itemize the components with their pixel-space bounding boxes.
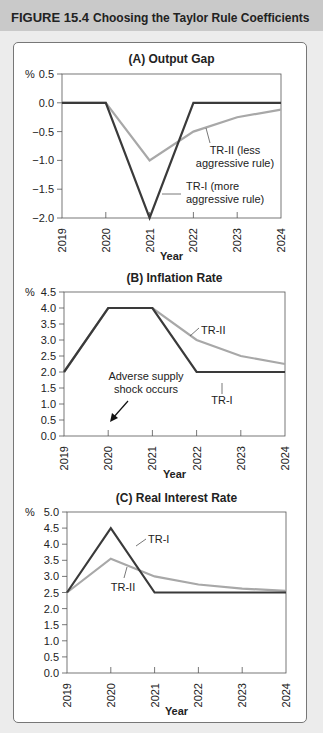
y-tick-label: 2.5 xyxy=(44,587,59,599)
annotation-tr2: TR-II xyxy=(111,581,135,593)
x-tick-label: 2019 xyxy=(61,683,73,707)
y-tick-label: 3.0 xyxy=(41,334,56,346)
y-tick-label: 4.5 xyxy=(44,522,59,534)
x-axis-label: Year xyxy=(160,250,184,262)
x-tick-label: 2023 xyxy=(236,683,248,707)
x-tick-label: 2021 xyxy=(144,228,156,252)
x-tick-label: 2020 xyxy=(100,228,112,252)
x-tick-label: 2021 xyxy=(149,683,161,707)
x-tick-label: 2020 xyxy=(105,683,117,707)
y-tick-label: 0.5 xyxy=(39,68,54,80)
y-tick-label: 1.5 xyxy=(41,382,56,394)
series-line-tr2 xyxy=(67,559,286,593)
x-tick-label: 2023 xyxy=(231,228,243,252)
x-tick-label: 2020 xyxy=(102,446,114,470)
x-tick-label: 2024 xyxy=(275,228,287,252)
y-unit-label: % xyxy=(25,506,35,518)
x-tick-label: 2021 xyxy=(146,446,158,470)
svg-text:aggressive rule): aggressive rule) xyxy=(196,157,274,169)
plot-frame xyxy=(64,292,285,436)
y-tick-label: 5.0 xyxy=(44,506,59,518)
x-tick-label: 2019 xyxy=(58,446,70,470)
chart-panel-a: (A) Output Gap0.50.0−0.5−1.0−1.5−2.0%201… xyxy=(25,52,287,262)
y-tick-label: 3.5 xyxy=(41,318,56,330)
y-unit-label: % xyxy=(25,286,35,298)
chart-panel-c: (C) Real Interest Rate5.04.54.03.53.02.5… xyxy=(25,491,292,717)
charts-canvas: (A) Output Gap0.50.0−0.5−1.0−1.5−2.0%201… xyxy=(0,0,323,733)
annotation-tr2: TR-II (less xyxy=(210,144,261,156)
x-tick-label: 2024 xyxy=(280,683,292,707)
series-line-tr1 xyxy=(67,528,286,592)
x-tick-label: 2022 xyxy=(192,683,204,707)
chart-panel-b: (B) Inflation Rate4.54.03.53.02.52.01.51… xyxy=(25,271,291,480)
y-tick-label: −2.0 xyxy=(32,212,54,224)
y-tick-label: 0.0 xyxy=(39,97,54,109)
y-tick-label: 2.0 xyxy=(44,603,59,615)
x-tick-label: 2022 xyxy=(191,446,203,470)
x-tick-label: 2022 xyxy=(187,228,199,252)
x-tick-label: 2023 xyxy=(235,446,247,470)
y-tick-label: 1.5 xyxy=(44,619,59,631)
y-tick-label: −1.0 xyxy=(32,154,54,166)
y-tick-label: −0.5 xyxy=(32,126,54,138)
y-tick-label: 0.5 xyxy=(44,651,59,663)
x-axis-label: Year xyxy=(163,468,187,480)
chart-title: (B) Inflation Rate xyxy=(127,271,223,285)
annotation-tr2: TR-II xyxy=(201,324,225,336)
y-tick-label: 0.0 xyxy=(41,430,56,442)
chart-title: (C) Real Interest Rate xyxy=(116,491,238,505)
y-tick-label: 1.0 xyxy=(41,398,56,410)
annotation-tr1: TR-I xyxy=(148,533,169,545)
annotation-shock: Adverse supply xyxy=(108,370,184,382)
series-line-tr1 xyxy=(64,308,285,372)
y-tick-label: 0.0 xyxy=(44,667,59,679)
svg-text:aggressive rule): aggressive rule) xyxy=(186,193,264,205)
y-tick-label: 3.5 xyxy=(44,554,59,566)
y-tick-label: 1.0 xyxy=(44,635,59,647)
y-tick-label: 4.0 xyxy=(44,538,59,550)
y-tick-label: 2.0 xyxy=(41,366,56,378)
chart-title: (A) Output Gap xyxy=(129,52,215,66)
annotation-tr1: TR-I (more xyxy=(186,180,239,192)
y-tick-label: 3.0 xyxy=(44,570,59,582)
y-tick-label: −1.5 xyxy=(32,183,54,195)
y-tick-label: 4.0 xyxy=(41,302,56,314)
y-tick-label: 2.5 xyxy=(41,350,56,362)
y-unit-label: % xyxy=(25,68,35,80)
x-axis-label: Year xyxy=(165,705,189,717)
annotation-tr1: TR-I xyxy=(211,394,232,406)
y-tick-label: 4.5 xyxy=(41,286,56,298)
y-tick-label: 0.5 xyxy=(41,414,56,426)
x-tick-label: 2024 xyxy=(279,446,291,470)
x-tick-label: 2019 xyxy=(56,228,68,252)
svg-text:shock occurs: shock occurs xyxy=(114,383,179,395)
